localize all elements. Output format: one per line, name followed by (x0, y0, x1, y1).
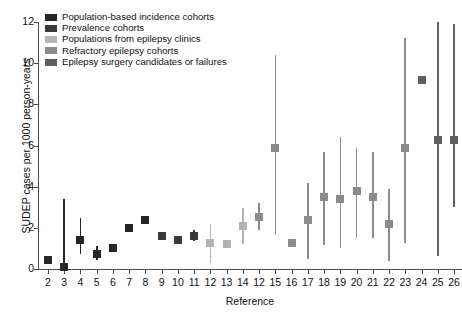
y-tick-mark (34, 22, 39, 23)
data-point-marker (223, 240, 231, 248)
data-point-marker (44, 256, 52, 264)
legend-item-1: Prevalence cohorts (45, 23, 227, 34)
x-tick-mark (113, 269, 114, 274)
confidence-interval-bar (453, 24, 455, 207)
x-tick-mark (422, 269, 423, 274)
x-tick-mark (340, 269, 341, 274)
x-tick-mark (210, 269, 211, 274)
x-tick-mark (405, 269, 406, 274)
confidence-interval-bar (63, 199, 65, 268)
data-point-marker (385, 220, 393, 228)
confidence-interval-bar (404, 38, 406, 243)
y-tick-label: 8 (28, 97, 34, 109)
data-point-marker (60, 263, 68, 271)
data-point-marker (336, 195, 344, 203)
data-point-marker (93, 250, 101, 258)
y-tick-mark (34, 104, 39, 105)
legend-swatch-icon (45, 59, 57, 66)
x-tick-mark (389, 269, 390, 274)
legend-item-label: Prevalence cohorts (62, 23, 144, 34)
legend: Population-based incidence cohortsPreval… (45, 12, 227, 68)
y-tick-label: 0 (28, 262, 34, 274)
x-axis-line (38, 269, 462, 270)
data-point-marker (190, 232, 198, 240)
data-point-marker (141, 216, 149, 224)
data-point-marker (206, 239, 214, 247)
data-point-marker (125, 224, 133, 232)
confidence-interval-bar (340, 137, 342, 248)
legend-swatch-icon (45, 47, 57, 54)
legend-item-label: Population-based incidence cohorts (62, 12, 214, 23)
legend-item-2: Populations from epilepsy clinics (45, 34, 227, 45)
x-tick-mark (373, 269, 374, 274)
x-tick-label: 26 (444, 276, 462, 288)
data-point-marker (450, 136, 458, 144)
legend-item-label: Refractory epilepsy cohorts (62, 46, 178, 57)
legend-swatch-icon (45, 25, 57, 32)
legend-item-3: Refractory epilepsy cohorts (45, 46, 227, 57)
data-point-marker (255, 213, 263, 221)
y-tick-label: 12 (22, 15, 34, 27)
x-tick-mark (438, 269, 439, 274)
data-point-marker (271, 144, 279, 152)
data-point-marker (434, 136, 442, 144)
x-tick-mark (80, 269, 81, 274)
y-tick-mark (34, 187, 39, 188)
x-tick-mark (259, 269, 260, 274)
legend-item-label: Populations from epilepsy clinics (62, 34, 201, 45)
legend-swatch-icon (45, 36, 57, 43)
y-tick-label: 4 (28, 180, 34, 192)
y-tick-label: 10 (22, 56, 34, 68)
x-tick-mark (97, 269, 98, 274)
x-tick-mark (48, 269, 49, 274)
x-tick-mark (243, 269, 244, 274)
y-tick-label: 2 (28, 221, 34, 233)
data-point-marker (158, 232, 166, 240)
y-tick-mark (34, 63, 39, 64)
x-tick-mark (129, 269, 130, 274)
x-tick-mark (162, 269, 163, 274)
y-tick-mark (34, 146, 39, 147)
data-point-marker (401, 144, 409, 152)
x-tick-mark (194, 269, 195, 274)
legend-item-4: Epilepsy surgery candidates or failures (45, 57, 227, 68)
data-point-marker (76, 236, 84, 244)
x-tick-mark (275, 269, 276, 274)
legend-swatch-icon (45, 14, 57, 21)
x-tick-mark (145, 269, 146, 274)
data-point-marker (109, 244, 117, 252)
y-tick-mark (34, 269, 39, 270)
sudep-forest-plot: SUDEP cases per 1000 person-years 024681… (0, 0, 462, 313)
x-tick-mark (292, 269, 293, 274)
x-tick-mark (227, 269, 228, 274)
data-point-marker (304, 216, 312, 224)
legend-item-0: Population-based incidence cohorts (45, 12, 227, 23)
y-tick-mark (34, 228, 39, 229)
legend-item-label: Epilepsy surgery candidates or failures (62, 57, 227, 68)
data-point-marker (369, 193, 377, 201)
data-point-marker (174, 236, 182, 244)
data-point-marker (239, 222, 247, 230)
x-tick-mark (178, 269, 179, 274)
data-point-marker (288, 239, 296, 247)
data-point-marker (320, 193, 328, 201)
x-tick-mark (357, 269, 358, 274)
x-axis-label: Reference (38, 295, 462, 307)
x-tick-mark (308, 269, 309, 274)
x-tick-mark (454, 269, 455, 274)
y-tick-label: 6 (28, 139, 34, 151)
x-tick-mark (324, 269, 325, 274)
data-point-marker (418, 76, 426, 84)
data-point-marker (353, 187, 361, 195)
